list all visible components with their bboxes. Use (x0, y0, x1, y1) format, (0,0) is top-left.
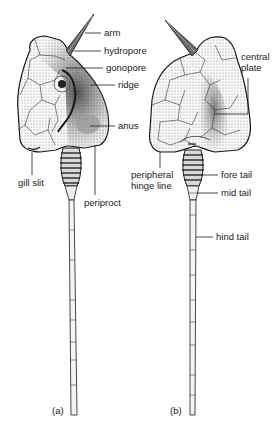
label-fore-tail: fore tail (221, 170, 252, 180)
panel-caption-a: (a) (52, 405, 64, 416)
label-hydropore: hydropore (104, 46, 147, 56)
fore-tail-a (60, 148, 82, 186)
label-mid-tail: mid tail (221, 188, 251, 198)
label-gill-slit: gill slit (18, 178, 44, 188)
label-anus: anus (118, 121, 139, 131)
fore-tail-b (182, 150, 204, 186)
theca-b (149, 37, 250, 152)
specimen-a (18, 14, 109, 415)
label-gonopore: gonopore (106, 63, 146, 73)
label-arm: arm (104, 28, 120, 38)
label-central-plate-line1: central (241, 52, 270, 62)
label-peripheral-hinge-line2: hinge line (131, 181, 172, 191)
label-hind-tail: hind tail (216, 232, 249, 242)
panel-caption-b: (b) (170, 405, 182, 416)
label-central-plate-line2: plate (241, 63, 262, 73)
hind-tail-b (190, 200, 196, 415)
hind-tail-a (69, 200, 77, 415)
label-peripheral-hinge-line1: peripheral (131, 170, 173, 180)
specimen-b (149, 20, 250, 415)
label-periproct: periproct (84, 198, 121, 208)
label-ridge: ridge (118, 80, 139, 90)
